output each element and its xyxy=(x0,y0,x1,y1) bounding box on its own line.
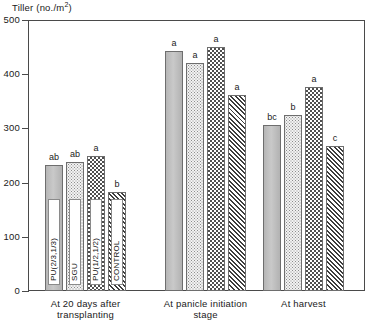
y-axis-title-main: Tiller (no./m xyxy=(12,2,64,13)
bar xyxy=(305,87,323,291)
y-axis-tick-label: 200 xyxy=(0,178,20,188)
series-label-pu-2-3-1-3: PU(2/3,1/3) xyxy=(48,199,60,285)
y-axis-tick-label: 300 xyxy=(0,123,20,133)
y-axis-tick-label: 400 xyxy=(0,69,20,79)
bar xyxy=(186,63,204,291)
significance-letter: a xyxy=(161,39,187,48)
y-axis-tick-label: 0 xyxy=(0,286,20,296)
bar xyxy=(284,115,302,291)
y-axis-tick xyxy=(22,74,29,75)
y-axis-title-close: ) xyxy=(69,2,72,13)
x-axis-group-label-line2: stage xyxy=(146,309,266,320)
y-axis-tick xyxy=(22,128,29,129)
significance-letter: b xyxy=(280,103,306,112)
significance-letter: a xyxy=(203,35,229,44)
significance-letter: a xyxy=(224,83,250,92)
significance-letter: bc xyxy=(259,113,285,122)
y-axis-tick-label: 100 xyxy=(0,232,20,242)
y-axis-tick xyxy=(22,237,29,238)
bar xyxy=(165,51,183,291)
series-label-control: CONTROL xyxy=(111,199,123,285)
y-axis-tick-label: 500 xyxy=(0,15,20,25)
bar xyxy=(263,125,281,291)
bar xyxy=(326,146,344,291)
x-axis-group-label-line2: transplanting xyxy=(26,309,146,320)
bar xyxy=(207,47,225,291)
y-axis-tick xyxy=(22,20,29,21)
y-axis-tick xyxy=(22,183,29,184)
y-axis-title: Tiller (no./m2) xyxy=(12,1,72,13)
x-axis-group-label-line1: At harvest xyxy=(244,298,364,309)
x-axis-group-label-line1: At 20 days after xyxy=(26,298,146,309)
y-axis-tick xyxy=(22,291,29,292)
significance-letter: b xyxy=(104,180,130,189)
x-axis-group-label: At harvest xyxy=(244,298,364,309)
significance-letter: c xyxy=(322,134,348,143)
bar xyxy=(228,95,246,291)
series-label-sgu: SGU xyxy=(69,199,81,285)
significance-letter: a xyxy=(301,75,327,84)
significance-letter: a xyxy=(182,51,208,60)
significance-letter: a xyxy=(83,144,109,153)
x-axis-group-label: At 20 days aftertransplanting xyxy=(26,298,146,320)
series-label-pu-1-2-1-2: PU(1/2,1/2) xyxy=(90,199,102,285)
tiller-bar-chart: Tiller (no./m2) 0100200300400500 abPU(2/… xyxy=(0,0,371,331)
